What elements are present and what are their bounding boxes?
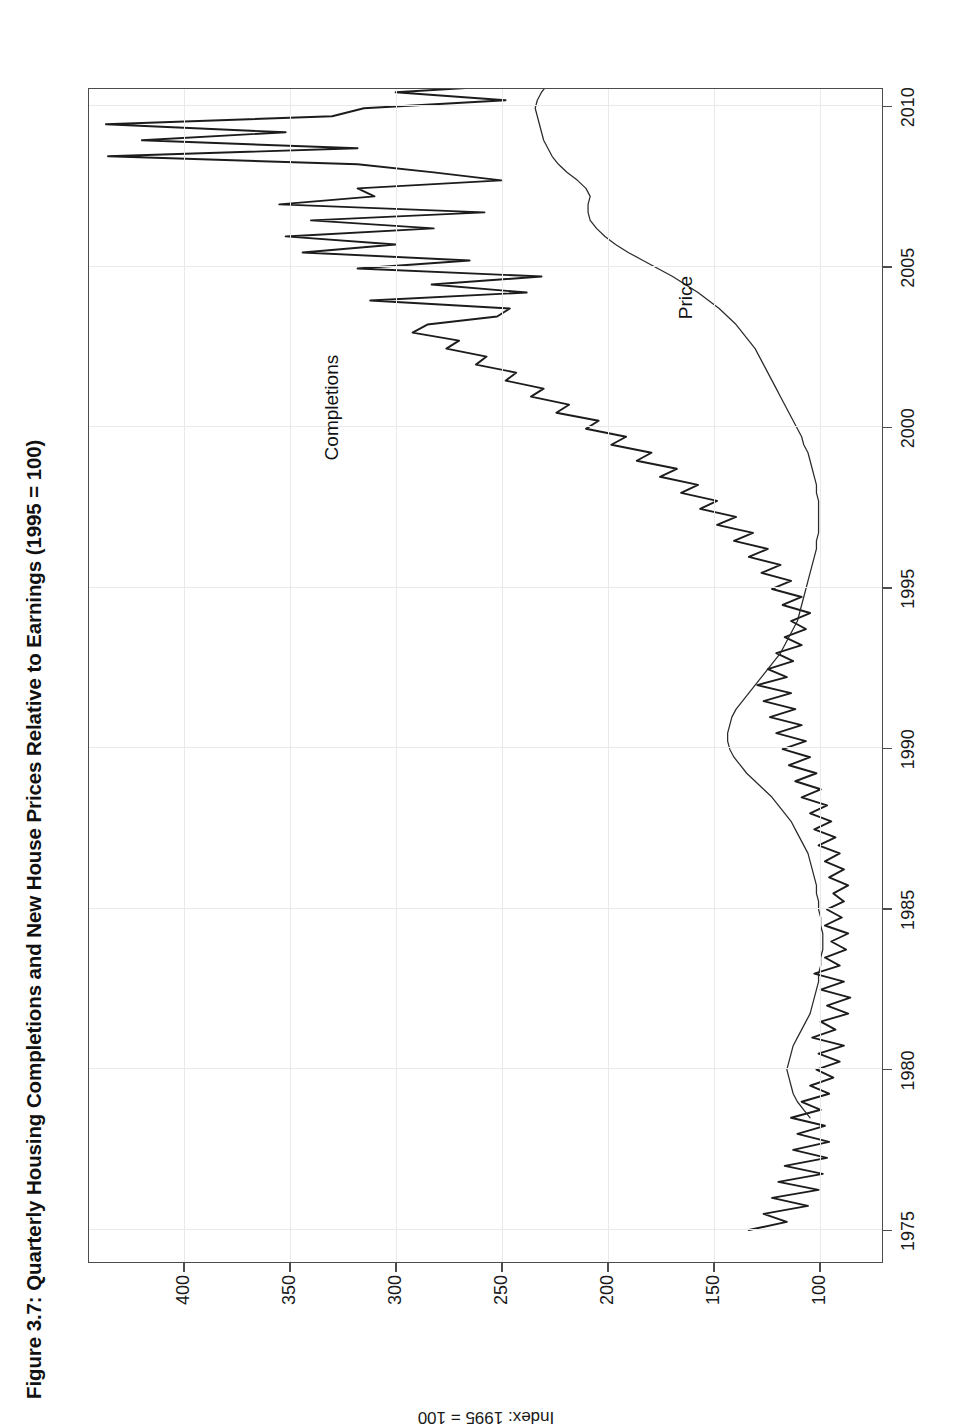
page-rotation-wrapper: Figure 3.7: Quarterly Housing Completion… <box>0 0 974 1427</box>
line-series-completions <box>106 89 850 1230</box>
gridline-horizontal <box>714 89 715 1262</box>
y-axis-tick <box>819 1263 820 1272</box>
y-axis-tick <box>395 1263 396 1272</box>
x-axis-tick-label: 1990 <box>898 729 919 769</box>
x-axis-tick <box>883 266 892 267</box>
y-axis-tick-label: 300 <box>385 1275 406 1327</box>
y-axis-tick <box>183 1263 184 1272</box>
gridline-horizontal <box>396 89 397 1262</box>
x-axis-tick-label: 1985 <box>898 890 919 930</box>
gridline-vertical <box>89 426 882 427</box>
gridline-vertical <box>89 1229 882 1230</box>
y-axis-title: Index: 1995 = 100 <box>418 1407 555 1427</box>
y-axis-tick <box>289 1263 290 1272</box>
plot-area <box>88 88 883 1263</box>
annotation-price: Price <box>675 276 697 319</box>
annotation-completions: Completions <box>321 355 343 461</box>
gridline-horizontal <box>290 89 291 1262</box>
x-axis-tick <box>883 1069 892 1070</box>
y-axis-tick <box>501 1263 502 1272</box>
x-axis-tick <box>883 587 892 588</box>
gridline-vertical <box>89 747 882 748</box>
y-axis-tick-label: 100 <box>809 1275 830 1327</box>
x-axis-tick <box>883 1230 892 1231</box>
x-axis-tick-label: 2000 <box>898 408 919 448</box>
line-series-price <box>535 89 823 1118</box>
gridline-vertical <box>89 1068 882 1069</box>
x-axis-tick <box>883 908 892 909</box>
gridline-vertical <box>89 587 882 588</box>
y-axis-tick-label: 400 <box>173 1275 194 1327</box>
gridline-horizontal <box>608 89 609 1262</box>
y-axis-tick-label: 150 <box>703 1275 724 1327</box>
x-axis-tick-label: 2010 <box>898 87 919 127</box>
x-axis-tick <box>883 427 892 428</box>
x-axis-tick-label: 2005 <box>898 248 919 288</box>
gridline-vertical <box>89 266 882 267</box>
y-axis-tick-label: 200 <box>597 1275 618 1327</box>
gridline-vertical <box>89 105 882 106</box>
x-axis-tick <box>883 106 892 107</box>
y-axis-tick <box>713 1263 714 1272</box>
x-axis-tick <box>883 748 892 749</box>
figure-container: Figure 3.7: Quarterly Housing Completion… <box>0 0 974 1427</box>
x-axis-tick-label: 1980 <box>898 1050 919 1090</box>
x-axis-tick-label: 1995 <box>898 569 919 609</box>
figure-title: Figure 3.7: Quarterly Housing Completion… <box>22 440 46 1399</box>
y-axis-tick <box>607 1263 608 1272</box>
y-axis-tick-label: 350 <box>279 1275 300 1327</box>
gridline-horizontal <box>184 89 185 1262</box>
x-axis-tick-label: 1975 <box>898 1211 919 1251</box>
gridline-vertical <box>89 908 882 909</box>
gridline-horizontal <box>502 89 503 1262</box>
plot-inner <box>89 89 882 1262</box>
y-axis-tick-label: 250 <box>491 1275 512 1327</box>
gridline-horizontal <box>820 89 821 1262</box>
